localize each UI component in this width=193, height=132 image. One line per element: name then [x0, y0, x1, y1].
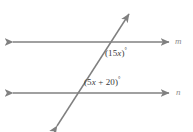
angle-label-lower: (5x + 20)° — [84, 76, 121, 87]
transversal-line — [57, 14, 129, 126]
line-label-m: m — [175, 36, 182, 46]
geometry-figure: (15x)° (5x + 20)° m n — [0, 0, 193, 132]
line-label-n: n — [176, 87, 181, 97]
angle-lower-constant: 20 — [106, 77, 115, 87]
angle-lower-variable: x — [92, 77, 96, 87]
angle-upper-degree-symbol: ° — [125, 47, 128, 53]
geometry-canvas — [0, 0, 193, 132]
angle-label-upper: (15x)° — [105, 47, 127, 58]
angle-lower-degree-symbol: ° — [118, 76, 121, 82]
angle-upper-coefficient: 15 — [108, 48, 117, 58]
angle-lower-operator: + — [98, 77, 103, 87]
